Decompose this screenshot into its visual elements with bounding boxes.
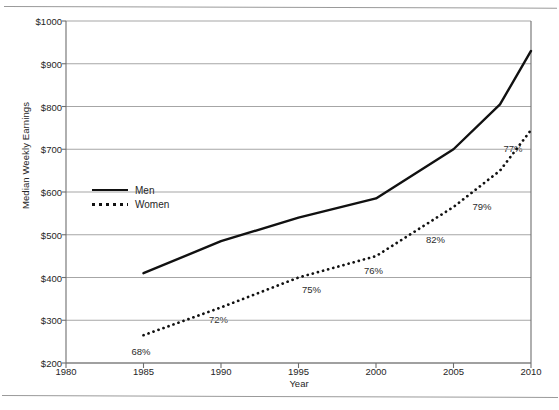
legend-item-women: Women	[92, 197, 210, 211]
legend-label-men: Men	[135, 185, 154, 196]
series-line-men	[144, 51, 532, 273]
legend-item-men: Men	[92, 183, 210, 197]
plot-area	[0, 0, 559, 410]
chart-legend: Men Women	[92, 183, 210, 213]
legend-label-women: Women	[135, 199, 169, 210]
series-line-women	[144, 130, 532, 335]
legend-line-dotted-icon	[92, 198, 128, 210]
legend-line-solid-icon	[92, 184, 128, 196]
chart-figure: Median Weekly Earnings Year $1000$900$80…	[0, 0, 559, 410]
